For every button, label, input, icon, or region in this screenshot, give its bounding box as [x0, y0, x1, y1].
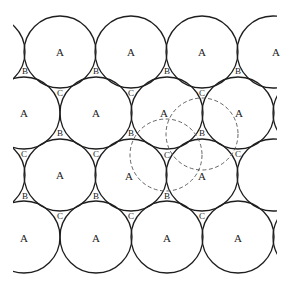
- void-label-b: B: [199, 128, 205, 138]
- site-label-a: A: [20, 232, 28, 244]
- site-label-a: A: [125, 170, 133, 182]
- sphere-outline: [0, 201, 60, 273]
- void-label-c: C: [128, 88, 134, 98]
- site-label-a: A: [20, 107, 28, 119]
- site-label-a: A: [127, 46, 135, 58]
- void-label-c: C: [199, 88, 205, 98]
- void-label-c: C: [199, 211, 205, 221]
- site-label-a: A: [163, 232, 171, 244]
- void-label-c: C: [57, 88, 63, 98]
- site-label-a: A: [92, 107, 100, 119]
- site-label-a: A: [198, 170, 206, 182]
- void-label-c: C: [21, 149, 27, 159]
- packing-svg: AAAABBBBCCCAAAABBBCCCCAAABBBCCCAAAA: [0, 0, 289, 287]
- site-label-a: A: [56, 169, 64, 181]
- void-label-b: B: [22, 191, 28, 201]
- site-label-a: A: [56, 46, 64, 58]
- sphere-outline: [0, 77, 60, 149]
- sphere-outlines-layer: [0, 16, 289, 273]
- void-label-b: B: [164, 66, 170, 76]
- void-label-b: B: [128, 128, 134, 138]
- site-label-a: A: [234, 232, 242, 244]
- sphere-outline: [237, 139, 289, 211]
- void-label-c: C: [128, 211, 134, 221]
- site-label-a: A: [198, 46, 206, 58]
- void-label-b: B: [93, 191, 99, 201]
- void-label-c: C: [57, 211, 63, 221]
- void-label-b: B: [235, 66, 241, 76]
- site-label-a: A: [235, 107, 243, 119]
- site-label-a: A: [272, 46, 280, 58]
- void-label-b: B: [57, 128, 63, 138]
- site-label-a: A: [92, 232, 100, 244]
- site-label-a: A: [160, 107, 168, 119]
- sphere-outline: [273, 201, 289, 273]
- void-label-b: B: [22, 66, 28, 76]
- void-label-c: C: [164, 150, 170, 160]
- void-label-c: C: [93, 149, 99, 159]
- void-label-b: B: [93, 66, 99, 76]
- void-label-b: B: [164, 191, 170, 201]
- close-packing-diagram: AAAABBBBCCCAAAABBBCCCCAAABBBCCCAAAA: [0, 0, 289, 287]
- void-label-c: C: [235, 149, 241, 159]
